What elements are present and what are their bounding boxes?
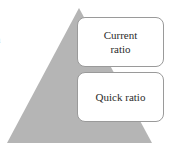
- liquidity-ratios-pyramid-diagram: a Current ratio Quick ratio: [0, 0, 175, 152]
- pyramid-level-quick-ratio: Quick ratio: [77, 72, 164, 122]
- current-ratio-label-line1: Current: [104, 28, 138, 42]
- pyramid-level-current-ratio: Current ratio: [77, 17, 164, 67]
- current-ratio-label-line2: ratio: [110, 42, 130, 56]
- quick-ratio-label: Quick ratio: [96, 90, 146, 104]
